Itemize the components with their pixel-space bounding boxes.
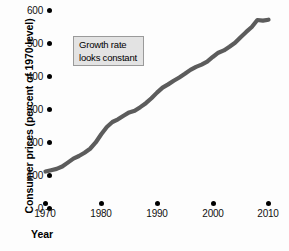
plot-area: [0, 0, 289, 251]
consumer-prices-line-chart: Consumer prices (percent of 1970 level) …: [0, 0, 289, 251]
price-index-line: [46, 20, 269, 172]
